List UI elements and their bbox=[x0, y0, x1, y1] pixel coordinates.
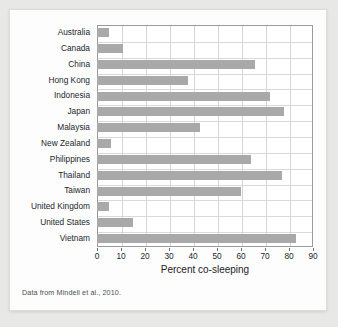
bar-row bbox=[97, 183, 313, 199]
category-label: Australia bbox=[10, 25, 94, 41]
bar bbox=[97, 60, 255, 69]
category-label: Canada bbox=[10, 41, 94, 57]
bar-row bbox=[97, 41, 313, 57]
bar bbox=[97, 187, 241, 196]
category-label: China bbox=[10, 57, 94, 73]
bar-row bbox=[97, 88, 313, 104]
bar-series bbox=[97, 25, 313, 247]
x-tick-label: 50 bbox=[212, 251, 221, 261]
bar bbox=[97, 44, 123, 53]
category-label: Japan bbox=[10, 104, 94, 120]
bar-row bbox=[97, 120, 313, 136]
bar-row bbox=[97, 231, 313, 247]
x-tick-label: 10 bbox=[116, 251, 125, 261]
bar bbox=[97, 76, 188, 85]
bar bbox=[97, 218, 133, 227]
bar-row bbox=[97, 73, 313, 89]
bar-row bbox=[97, 199, 313, 215]
bar bbox=[97, 107, 284, 116]
category-label: Vietnam bbox=[10, 231, 94, 247]
bar-row bbox=[97, 168, 313, 184]
bar-row bbox=[97, 136, 313, 152]
x-tick-label: 0 bbox=[95, 251, 100, 261]
figure-caption: Data from Mindell et al., 2010. bbox=[22, 288, 121, 297]
bar-row bbox=[97, 25, 313, 41]
bar-row bbox=[97, 215, 313, 231]
x-tick-label: 30 bbox=[164, 251, 173, 261]
bar bbox=[97, 234, 296, 243]
x-axis-title: Percent co-sleeping bbox=[97, 264, 313, 275]
category-label: Indonesia bbox=[10, 88, 94, 104]
x-tick-label: 20 bbox=[140, 251, 149, 261]
x-tick-label: 90 bbox=[308, 251, 317, 261]
bar bbox=[97, 171, 282, 180]
figure-card: AustraliaCanadaChinaHong KongIndonesiaJa… bbox=[9, 9, 327, 311]
category-axis-labels: AustraliaCanadaChinaHong KongIndonesiaJa… bbox=[10, 25, 94, 247]
bar-row bbox=[97, 152, 313, 168]
category-label: United Kingdom bbox=[10, 199, 94, 215]
x-tick-label: 80 bbox=[284, 251, 293, 261]
x-tick-label: 70 bbox=[260, 251, 269, 261]
bar-chart: AustraliaCanadaChinaHong KongIndonesiaJa… bbox=[10, 12, 328, 264]
bar bbox=[97, 139, 111, 148]
category-label: Hong Kong bbox=[10, 73, 94, 89]
category-label: Thailand bbox=[10, 168, 94, 184]
bar-row bbox=[97, 104, 313, 120]
bar bbox=[97, 155, 251, 164]
bar bbox=[97, 28, 109, 37]
category-label: Malaysia bbox=[10, 120, 94, 136]
x-axis-ticks: 0102030405060708090 bbox=[97, 248, 313, 262]
category-label: New Zealand bbox=[10, 136, 94, 152]
x-tick-label: 60 bbox=[236, 251, 245, 261]
bar bbox=[97, 202, 109, 211]
bar bbox=[97, 123, 200, 132]
x-tick-label: 40 bbox=[188, 251, 197, 261]
bar-row bbox=[97, 57, 313, 73]
category-label: Taiwan bbox=[10, 183, 94, 199]
category-label: United States bbox=[10, 215, 94, 231]
bar bbox=[97, 92, 270, 101]
category-label: Philippines bbox=[10, 152, 94, 168]
